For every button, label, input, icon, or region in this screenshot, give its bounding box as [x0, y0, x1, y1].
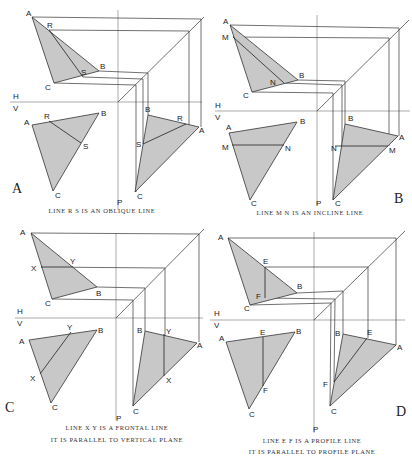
point-label: E	[367, 328, 372, 337]
point-label: A	[199, 126, 205, 135]
point-label: A	[19, 337, 25, 346]
label-p: P	[116, 414, 121, 423]
miter-line	[317, 20, 409, 111]
panel-d: H V P A E B F C A E B F C B E A F C D LI…	[210, 231, 406, 455]
label-h: H	[214, 309, 220, 318]
front-view-triangle	[226, 332, 295, 409]
point-label: F	[256, 292, 261, 301]
point-label: C	[45, 299, 51, 308]
label-v: V	[13, 104, 19, 113]
point-label: C	[249, 410, 255, 419]
point-label: F	[263, 386, 268, 395]
point-label: C	[45, 83, 51, 92]
point-label: E	[260, 328, 265, 337]
point-label: A	[219, 334, 225, 343]
label-v: V	[17, 319, 23, 328]
caption-line-2: IT IS PARALLEL TO PROFILE PLANE	[249, 448, 376, 455]
point-label: M	[222, 33, 229, 42]
miter-line	[118, 17, 204, 102]
point-label: A	[20, 228, 26, 237]
point-label: M	[222, 143, 229, 152]
point-label: B	[137, 326, 142, 335]
point-label: S	[81, 68, 86, 77]
panel-label: D	[396, 404, 406, 419]
label-v: V	[215, 113, 221, 122]
caption-line-1: LINE M N IS AN INCLINE LINE	[257, 209, 364, 216]
point-label: C	[52, 403, 58, 412]
point-label: B	[100, 62, 105, 71]
point-label: Y	[70, 257, 76, 266]
front-view-triangle	[32, 113, 99, 191]
label-p: P	[316, 199, 321, 208]
point-label: B	[101, 109, 106, 118]
point-label: A	[397, 343, 403, 352]
panel-c: H V P A X Y B C A Y B X C B Y A X C C LI…	[5, 228, 204, 443]
point-label: M	[389, 146, 396, 155]
point-label: C	[331, 407, 337, 416]
point-label: B	[300, 117, 305, 126]
point-label: A	[218, 233, 224, 242]
label-p: P	[117, 198, 122, 207]
side-view-triangle	[135, 115, 199, 192]
point-label: N	[285, 144, 291, 153]
point-label: Y	[166, 327, 172, 336]
point-label: C	[133, 407, 139, 416]
caption-line-1: LINE R S IS AN OBLIQUE LINE	[49, 207, 156, 214]
point-label: S	[83, 142, 88, 151]
point-label: A	[226, 123, 232, 132]
caption-line-2: IT IS PARALLEL TO VERTICAL PLANE	[51, 436, 183, 443]
point-label: X	[30, 374, 36, 383]
label-h: H	[13, 92, 19, 101]
front-view-triangle	[29, 330, 97, 403]
side-view-triangle	[133, 331, 197, 406]
point-label: B	[296, 327, 301, 336]
side-view-triangle	[333, 124, 398, 200]
point-label: C	[137, 192, 143, 201]
point-label: F	[323, 380, 328, 389]
point-label: A	[399, 133, 405, 142]
point-label: B	[145, 105, 150, 114]
point-label: B	[299, 71, 304, 80]
top-view-triangle	[32, 17, 99, 83]
panel-a: H V P A R B S C A R B S C B R A S C A LI…	[10, 9, 205, 214]
point-label: C	[244, 304, 250, 313]
miter-line	[116, 229, 204, 318]
front-view-triangle	[229, 122, 297, 200]
caption-line-1: LINE X Y IS A FRONTAL LINE	[66, 424, 169, 431]
point-label: N	[270, 78, 276, 87]
orthographic-projection-diagram: H V P A R B S C A R B S C B R A S C A LI…	[0, 0, 412, 456]
label-h: H	[17, 307, 23, 316]
point-label: A	[24, 118, 30, 127]
panel-label: C	[5, 400, 14, 415]
top-view-triangle	[228, 238, 297, 305]
top-view-triangle	[31, 233, 97, 299]
caption-line-1: LINE E F IS A PROFILE LINE	[263, 437, 362, 444]
point-label: A	[26, 9, 32, 18]
point-label: B	[348, 114, 353, 123]
point-label: E	[263, 257, 268, 266]
point-label: X	[31, 264, 37, 273]
point-label: X	[166, 376, 172, 385]
projector-s	[83, 77, 143, 144]
point-label: S	[136, 140, 141, 149]
point-label: B	[335, 329, 340, 338]
point-label: C	[335, 199, 341, 208]
panel-label: B	[394, 191, 403, 206]
miter-line	[314, 231, 405, 320]
panel-b: H V P A M B N C A M B N C B A M N C B LI…	[215, 15, 410, 216]
point-label: B	[297, 282, 302, 291]
label-v: V	[214, 321, 220, 330]
point-label: N	[331, 144, 337, 153]
panel-label: A	[12, 181, 23, 196]
point-label: B	[96, 289, 101, 298]
point-label: C	[55, 191, 61, 200]
label-h: H	[215, 101, 221, 110]
projector-e	[265, 267, 368, 338]
point-label: A	[197, 341, 203, 350]
point-label: C	[251, 199, 257, 208]
projector-b	[97, 287, 145, 331]
point-label: B	[98, 326, 103, 335]
projector-b	[297, 291, 343, 334]
point-label: Y	[67, 323, 73, 332]
point-label: C	[243, 91, 249, 100]
